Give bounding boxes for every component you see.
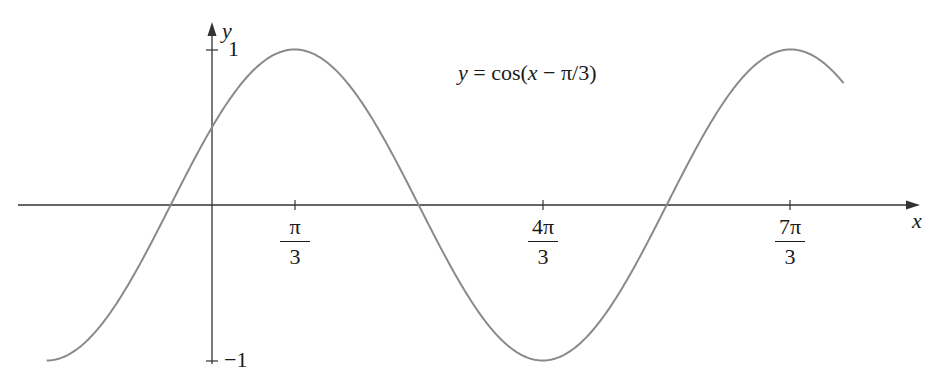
equation-variable: x [528, 60, 538, 85]
fraction-denominator: 3 [275, 242, 315, 268]
x-tick-label-pi-3: π 3 [275, 216, 315, 268]
y-axis-arrow-icon [208, 22, 217, 36]
equation-rhs-suffix: − π/3) [538, 60, 597, 85]
fraction-denominator: 3 [523, 242, 563, 268]
equation-rhs-prefix: = cos( [468, 60, 528, 85]
fraction-numerator: π [280, 216, 310, 242]
x-tick-label-4pi-3: 4π 3 [523, 216, 563, 268]
fraction-numerator: 7π [775, 216, 805, 242]
equation-annotation: y = cos(x − π/3) [458, 60, 597, 86]
x-axis-label: x [912, 210, 922, 232]
equation-lhs: y [458, 60, 468, 85]
fraction-numerator: 4π [528, 216, 558, 242]
y-tick-label-minus-1: −1 [224, 349, 247, 371]
y-tick-label-1: 1 [228, 38, 239, 60]
fraction-denominator: 3 [770, 242, 810, 268]
x-tick-label-7pi-3: 7π 3 [770, 216, 810, 268]
plot-canvas [0, 0, 931, 384]
